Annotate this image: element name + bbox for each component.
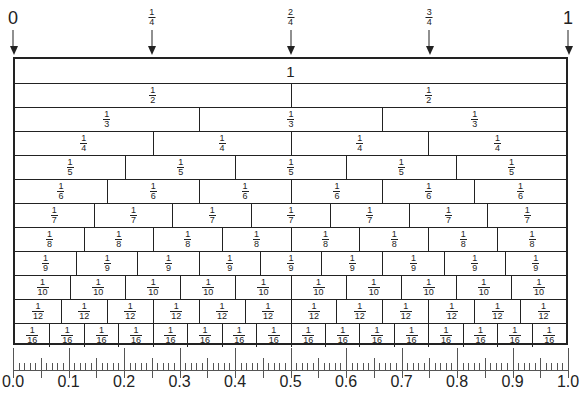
ruler-tick bbox=[318, 358, 319, 378]
denominator: 10 bbox=[257, 287, 269, 297]
fraction-piece: 18 bbox=[428, 228, 497, 251]
ruler-tick bbox=[429, 358, 430, 378]
fraction-piece: 19 bbox=[444, 252, 505, 275]
numerator: 1 bbox=[460, 230, 467, 239]
numerator: 1 bbox=[265, 302, 272, 311]
fraction-piece: 17 bbox=[15, 204, 94, 227]
fraction-piece: 112 bbox=[153, 300, 199, 323]
denominator: 8 bbox=[115, 239, 122, 249]
fraction-piece: 112 bbox=[107, 300, 153, 323]
fraction-piece: 15 bbox=[235, 156, 345, 179]
denominator: 9 bbox=[42, 263, 49, 273]
fraction-piece: 19 bbox=[382, 252, 443, 275]
denominator: 9 bbox=[349, 263, 356, 273]
fraction-row-8: 1818181818181818 bbox=[15, 227, 566, 251]
fraction-piece: 116 bbox=[187, 324, 221, 347]
numerator: 1 bbox=[242, 182, 249, 191]
denominator: 2 bbox=[149, 95, 156, 105]
denominator: 5 bbox=[508, 167, 515, 177]
numerator: 1 bbox=[339, 326, 346, 335]
fraction-piece: 16 bbox=[382, 180, 474, 203]
numerator: 1 bbox=[480, 278, 487, 287]
denominator: 3 bbox=[471, 119, 478, 129]
denominator: 4 bbox=[80, 143, 87, 153]
denominator: 12 bbox=[446, 311, 458, 321]
denominator: 8 bbox=[253, 239, 260, 249]
denominator: 10 bbox=[92, 287, 104, 297]
ruler-label: 0.0 bbox=[2, 373, 24, 391]
denominator: 16 bbox=[164, 335, 176, 345]
ruler-tick bbox=[218, 363, 219, 370]
denominator: 16 bbox=[337, 335, 349, 345]
numerator: 1 bbox=[287, 158, 294, 167]
ruler-tick bbox=[252, 363, 253, 370]
fraction-piece: 16 bbox=[474, 180, 566, 203]
fraction-piece: 14 bbox=[15, 132, 153, 155]
fraction-piece: 116 bbox=[463, 324, 497, 347]
numerator: 1 bbox=[425, 182, 432, 191]
numerator: 1 bbox=[42, 254, 49, 263]
ruler-tick bbox=[562, 363, 563, 370]
numerator: 1 bbox=[356, 134, 363, 143]
denominator: 8 bbox=[529, 239, 536, 249]
denominator: 10 bbox=[37, 287, 49, 297]
ruler-label: 0.8 bbox=[446, 373, 468, 391]
fraction-piece: 110 bbox=[125, 276, 180, 299]
numerator: 1 bbox=[253, 230, 260, 239]
ruler-tick bbox=[385, 363, 386, 370]
numerator: 1 bbox=[310, 302, 317, 311]
numerator: 1 bbox=[408, 326, 415, 335]
fraction-piece: 19 bbox=[15, 252, 76, 275]
denominator: 12 bbox=[538, 311, 550, 321]
ruler-tick bbox=[24, 363, 25, 370]
numerator: 1 bbox=[471, 110, 478, 119]
fraction-piece: 110 bbox=[401, 276, 456, 299]
numerator: 1 bbox=[46, 230, 53, 239]
fraction-piece: 110 bbox=[291, 276, 346, 299]
fraction-piece: 12 bbox=[15, 84, 291, 107]
ruler-tick bbox=[357, 363, 358, 370]
ruler-tick bbox=[257, 363, 258, 370]
numerator: 1 bbox=[148, 8, 155, 17]
arrowhead-icon bbox=[426, 46, 434, 55]
fraction-piece: 19 bbox=[199, 252, 260, 275]
numerator: 1 bbox=[133, 326, 140, 335]
denominator: 16 bbox=[130, 335, 142, 345]
ruler-tick bbox=[540, 358, 541, 378]
fraction-piece: 15 bbox=[456, 156, 566, 179]
fraction-piece: 116 bbox=[222, 324, 256, 347]
numerator: 1 bbox=[34, 302, 41, 311]
ruler-tick bbox=[213, 363, 214, 370]
fraction-piece: 17 bbox=[409, 204, 488, 227]
ruler-tick bbox=[241, 363, 242, 370]
fraction-piece: 17 bbox=[251, 204, 330, 227]
fraction-piece: 16 bbox=[199, 180, 291, 203]
ruler-tick bbox=[435, 363, 436, 370]
denominator: 6 bbox=[517, 191, 524, 201]
denominator: 16 bbox=[233, 335, 245, 345]
numerator: 1 bbox=[532, 254, 539, 263]
denominator: 10 bbox=[478, 287, 490, 297]
fraction-piece: 116 bbox=[153, 324, 187, 347]
denominator: 8 bbox=[184, 239, 191, 249]
fraction-piece: 16 bbox=[15, 180, 107, 203]
denominator: 8 bbox=[391, 239, 398, 249]
fraction-piece: 19 bbox=[76, 252, 137, 275]
ruler-label: 0.1 bbox=[57, 373, 79, 391]
numerator: 1 bbox=[95, 278, 102, 287]
denominator: 10 bbox=[147, 287, 159, 297]
ruler-tick bbox=[307, 363, 308, 370]
fraction-piece: 116 bbox=[291, 324, 325, 347]
fraction-piece: 15 bbox=[125, 156, 235, 179]
ruler-tick bbox=[329, 363, 330, 370]
denominator: 12 bbox=[124, 311, 136, 321]
fraction-piece: 112 bbox=[15, 300, 61, 323]
numerator: 1 bbox=[370, 278, 377, 287]
numerator: 1 bbox=[98, 326, 105, 335]
ruler-tick bbox=[196, 363, 197, 370]
fraction-piece: 17 bbox=[330, 204, 409, 227]
numerator: 1 bbox=[374, 326, 381, 335]
fraction-piece: 16 bbox=[291, 180, 383, 203]
fraction-piece: 13 bbox=[15, 108, 199, 131]
denominator: 9 bbox=[471, 263, 478, 273]
